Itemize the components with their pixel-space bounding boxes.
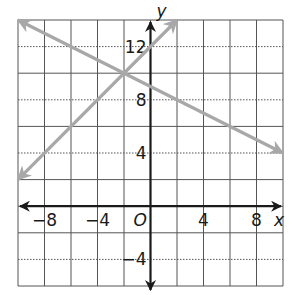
x-tick-label: 8 [251, 210, 262, 230]
coordinate-plane: −8−4481284−4 x y O [0, 0, 296, 295]
x-tick-label: 4 [198, 210, 209, 230]
x-axis-label: x [273, 210, 285, 230]
y-axis-label: y [156, 1, 168, 21]
y-tick-label: 4 [136, 143, 147, 163]
origin-label: O [134, 210, 147, 230]
x-tick-label: −8 [32, 210, 57, 230]
axes [20, 22, 281, 290]
x-tick-label: −4 [85, 210, 110, 230]
y-tick-label: 8 [136, 90, 147, 110]
y-tick-label: −4 [121, 249, 146, 269]
